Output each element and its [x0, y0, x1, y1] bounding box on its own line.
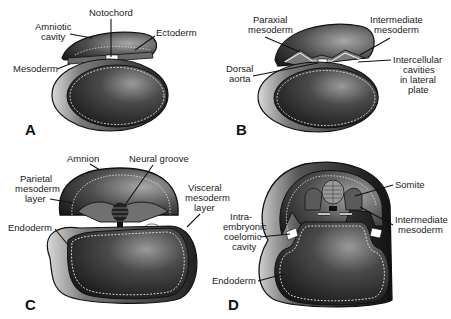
- panel-label-b: B: [236, 121, 247, 138]
- panel-label-d: D: [228, 296, 239, 313]
- label-amniotic-cavity-2: cavity: [41, 31, 66, 42]
- panel-c: Amnion Neural groove Parietal mesoderm l…: [8, 153, 230, 313]
- label-intermediate-d-2: mesoderm: [398, 224, 443, 235]
- label-neural-groove: Neural groove: [129, 153, 189, 164]
- artist-signature: sl.L.F.: [372, 296, 389, 304]
- yolk-sac: [68, 228, 189, 299]
- label-notochord: Notochord: [89, 7, 133, 18]
- notochord-shape: [117, 222, 123, 227]
- yolk-sac: [274, 68, 378, 128]
- panel-d: Somite Intermediate mesoderm Intra- embr…: [212, 162, 448, 313]
- notochord-shape: [329, 206, 337, 211]
- label-ectoderm: Ectoderm: [156, 27, 197, 38]
- yolk-sac: [67, 65, 167, 127]
- label-somite: Somite: [395, 179, 425, 190]
- panel-label-a: A: [25, 121, 36, 138]
- label-amnion: Amnion: [67, 153, 99, 164]
- label-intercellular-4: plate: [408, 84, 429, 95]
- label-dorsal-aorta-2: aorta: [229, 73, 251, 84]
- label-mesoderm: Mesoderm: [13, 63, 58, 74]
- label-parietal-3: layer: [25, 193, 46, 204]
- label-endoderm-c: Endoderm: [8, 222, 52, 233]
- panel-b: Paraxial mesoderm Intermediate mesoderm …: [226, 14, 442, 138]
- label-visceral-3: layer: [194, 202, 215, 213]
- label-endoderm-d: Endoderm: [212, 275, 256, 286]
- label-intermediate-mesoderm-2: mesoderm: [374, 24, 419, 35]
- embryo-diagram: Notochord Amniotic cavity Ectoderm Mesod…: [0, 0, 451, 319]
- label-paraxial-mesoderm-2: mesoderm: [248, 24, 293, 35]
- panel-label-c: C: [25, 296, 36, 313]
- somite-shape: [344, 188, 362, 210]
- panel-a: Notochord Amniotic cavity Ectoderm Mesod…: [13, 7, 197, 138]
- label-coelomic-4: cavity: [232, 241, 257, 252]
